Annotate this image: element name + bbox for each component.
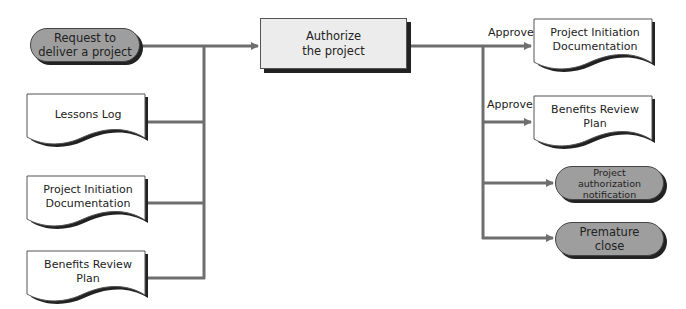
request-to-deliver-event[interactable]: Request to deliver a project [30, 28, 140, 62]
output-doc-benefits-review-plan[interactable]: Benefits Review Plan [533, 95, 657, 149]
process-label: Authorize the project [302, 29, 364, 59]
input-doc-lessons-log[interactable]: Lessons Log [26, 93, 150, 147]
doc-label: Benefits Review Plan [44, 258, 132, 286]
event-label: Project authorization notification [578, 167, 641, 200]
approve-label-1: Approve [488, 26, 534, 39]
premature-close-event[interactable]: Premature close [555, 222, 664, 256]
event-label: Request to deliver a project [38, 31, 132, 59]
output-doc-project-initiation-documentation[interactable]: Project Initiation Documentation [533, 18, 657, 72]
input-doc-benefits-review-plan[interactable]: Benefits Review Plan [26, 250, 150, 304]
authorize-project-process[interactable]: Authorize the project [260, 18, 407, 69]
input-doc-project-initiation-documentation[interactable]: Project Initiation Documentation [26, 175, 150, 229]
event-label: Premature close [580, 225, 640, 253]
doc-label: Project Initiation Documentation [550, 26, 640, 54]
doc-label: Project Initiation Documentation [43, 183, 133, 211]
project-authorization-notification-event[interactable]: Project authorization notification [555, 166, 664, 200]
doc-label: Lessons Log [55, 108, 122, 122]
approve-label-2: Approve [487, 98, 533, 111]
doc-label: Benefits Review Plan [551, 103, 639, 131]
